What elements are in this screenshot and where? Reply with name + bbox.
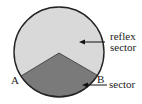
- label-reflex-line2: sector: [110, 41, 137, 53]
- label-sector: sector: [109, 78, 136, 90]
- label-point-a: A: [11, 74, 19, 86]
- sector-diagram: reflex sector sector A B: [0, 0, 142, 104]
- label-point-b: B: [97, 73, 104, 85]
